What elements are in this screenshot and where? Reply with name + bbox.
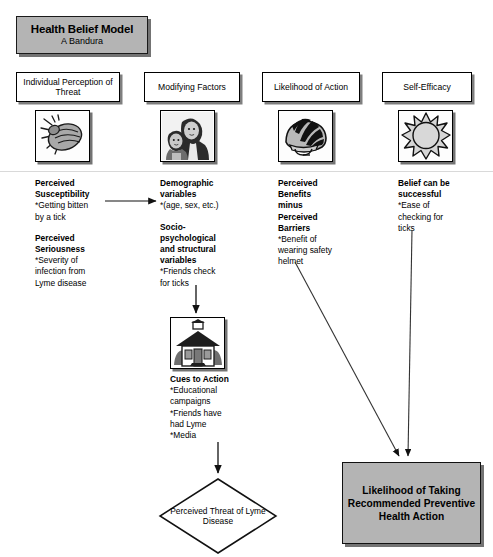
demographic-variables-heading: Demographic variables — [160, 178, 265, 200]
sun-icon-box — [398, 110, 453, 162]
arrow-benefits-to-outcome — [295, 262, 399, 456]
cues-to-action-detail: *Educational campaigns *Friends have had… — [170, 385, 280, 441]
column-header-label: Individual Perception of Threat — [20, 77, 116, 98]
schoolhouse-icon-box — [170, 317, 225, 369]
socio-psychological-variables-heading: Socio- psychological and structural vari… — [160, 222, 265, 267]
helmet-icon-box — [278, 110, 333, 162]
perceived-susceptibility-heading: Perceived Susceptibility — [35, 178, 135, 200]
belief-can-be-successful-heading: Belief can be successful — [398, 178, 493, 200]
section-divider — [0, 171, 493, 172]
perceived-seriousness-heading: Perceived Seriousness — [35, 233, 135, 255]
helmet-icon — [281, 113, 331, 159]
diamond-label: Perceived Threat of Lyme Disease — [158, 477, 278, 555]
perceived-susceptibility-detail: *Getting bitten by a tick — [35, 200, 135, 222]
outcome-box[interactable]: Likelihood of Taking Recommended Prevent… — [342, 462, 481, 544]
perceived-benefits-barriers-heading: Perceived Benefits minus Perceived Barri… — [278, 178, 378, 234]
schoolhouse-icon — [172, 319, 224, 368]
perceived-benefits-barriers-detail: *Benefit of wearing safety helmet — [278, 234, 378, 268]
demographic-variables-detail: *(age, sex, etc.) — [160, 200, 265, 211]
perceived-seriousness-detail: *Severity of infection from Lyme disease — [35, 255, 135, 289]
column-header-individual-perception-of-threat[interactable]: Individual Perception of Threat — [16, 72, 120, 102]
outcome-label: Likelihood of Taking Recommended Prevent… — [347, 484, 476, 523]
title-subtitle: A Bandura — [61, 36, 103, 47]
socio-psychological-variables-detail: *Friends check for ticks — [160, 266, 265, 288]
tick-icon-box — [35, 110, 90, 162]
belief-can-be-successful-detail: *Ease of checking for ticks — [398, 200, 493, 234]
column-header-self-efficacy[interactable]: Self-Efficacy — [382, 72, 472, 102]
column-header-modifying-factors[interactable]: Modifying Factors — [144, 72, 240, 102]
perceived-threat-diamond: Perceived Threat of Lyme Disease — [158, 477, 278, 555]
mother-and-child-icon-box — [160, 110, 215, 162]
column-header-likelihood-of-action[interactable]: Likelihood of Action — [262, 72, 360, 102]
column-header-label: Self-Efficacy — [403, 82, 451, 93]
cues-to-action-heading: Cues to Action — [170, 374, 280, 385]
column-header-label: Likelihood of Action — [274, 82, 348, 93]
diagram-canvas: Health Belief Model A Bandura Individual… — [0, 0, 493, 557]
arrow-self-efficacy-to-outcome — [408, 230, 412, 456]
tick-icon — [38, 113, 88, 159]
title-main: Health Belief Model — [31, 23, 133, 35]
column-header-label: Modifying Factors — [158, 82, 226, 93]
title-box: Health Belief Model A Bandura — [16, 16, 148, 54]
sun-icon — [401, 112, 451, 160]
mother-and-child-icon — [162, 112, 213, 160]
